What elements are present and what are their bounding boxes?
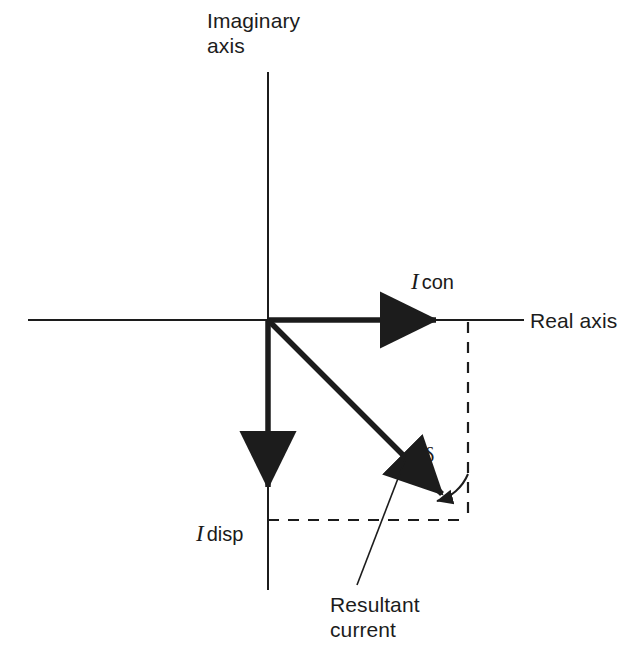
phasor-diagram-figure: Imaginary axis Real axis Icon Idisp δ Re…: [0, 0, 638, 656]
i-con-subscript: con: [419, 271, 454, 293]
i-disp-subscript: disp: [204, 523, 244, 545]
i-disp-label: Idisp: [196, 522, 243, 546]
vector-resultant-current: [268, 320, 442, 494]
angle-arc-delta: [437, 474, 468, 501]
i-con-symbol: I: [411, 269, 419, 294]
i-con-label: Icon: [411, 270, 454, 294]
resultant-current-label: Resultant current: [330, 592, 420, 642]
real-axis-label: Real axis: [530, 308, 617, 333]
i-disp-symbol: I: [196, 521, 204, 546]
imaginary-axis-label: Imaginary axis: [207, 8, 300, 58]
delta-angle-label: δ: [424, 444, 434, 466]
leader-line-resultant-current: [357, 455, 407, 585]
